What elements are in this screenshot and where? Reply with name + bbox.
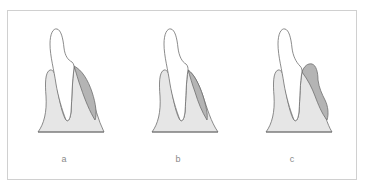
panel-c <box>266 29 332 132</box>
panel-b <box>152 29 218 132</box>
panel-label-a: a <box>54 154 74 164</box>
panel-a <box>38 29 104 132</box>
panel-label-b: b <box>168 154 188 164</box>
panel-label-c: c <box>282 154 302 164</box>
